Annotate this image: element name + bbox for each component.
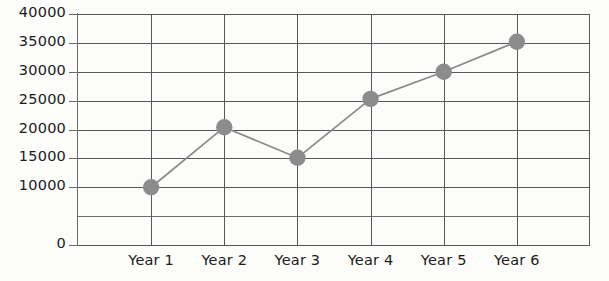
gridline-vertical [444, 14, 445, 245]
y-tick-label: 0 [0, 235, 66, 251]
y-tick-mark [69, 72, 78, 73]
plot-right-border [589, 14, 590, 245]
chart-figure: 010000150002000025000300003500040000 Yea… [0, 0, 609, 281]
gridline-horizontal [78, 101, 590, 102]
gridline-vertical [517, 14, 518, 245]
gridline-horizontal [78, 216, 590, 217]
y-tick-mark [69, 130, 78, 131]
y-tick-label: 30000 [0, 62, 66, 78]
gridline-horizontal [78, 158, 590, 159]
y-tick-label: 20000 [0, 120, 66, 136]
y-tick-mark [69, 158, 78, 159]
gridline-horizontal [78, 130, 590, 131]
y-tick-mark [69, 14, 78, 15]
y-tick-mark [69, 187, 78, 188]
y-tick-label: 15000 [0, 148, 66, 164]
y-tick-label: 40000 [0, 4, 66, 20]
gridline-vertical [371, 14, 372, 245]
gridline-horizontal [78, 187, 590, 188]
gridline-vertical [151, 14, 152, 245]
y-tick-mark [69, 101, 78, 102]
y-tick-mark [69, 245, 78, 246]
plot-area [78, 14, 590, 245]
gridline-vertical [297, 14, 298, 245]
x-tick-label: Year 6 [472, 252, 562, 268]
gridline-horizontal [78, 14, 590, 15]
gridline-horizontal [78, 43, 590, 44]
y-tick-label: 10000 [0, 177, 66, 193]
gridline-horizontal [78, 245, 590, 246]
y-tick-mark [69, 43, 78, 44]
y-tick-label: 25000 [0, 91, 66, 107]
gridline-vertical [224, 14, 225, 245]
y-tick-label: 35000 [0, 33, 66, 49]
gridline-horizontal [78, 72, 590, 73]
